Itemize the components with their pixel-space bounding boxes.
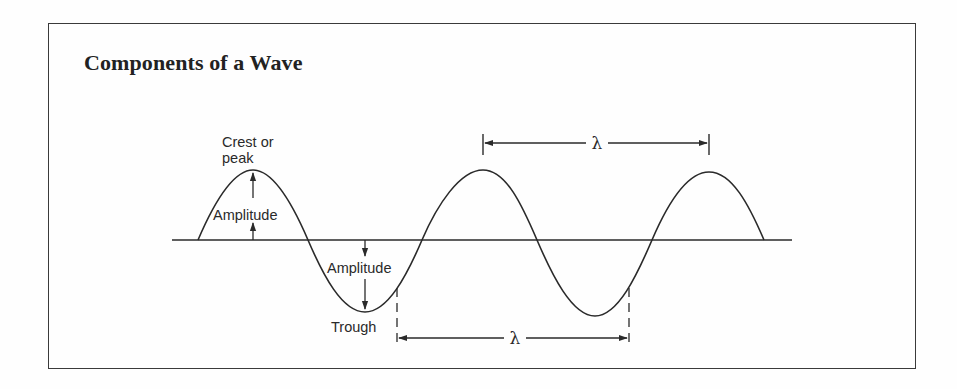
wave-curve [198,170,764,316]
amplitude-label-bottom: Amplitude [327,260,391,276]
wave-diagram: Crest or peak Amplitude Amplitude Trough… [0,0,957,389]
crest-label-line2: peak [222,150,254,166]
wavelength-top-label: λ [592,133,603,153]
trough-label: Trough [331,319,376,335]
wavelength-bottom-label: λ [510,328,521,348]
amplitude-label-top: Amplitude [213,207,277,223]
crest-label-line1: Crest or [222,134,274,150]
